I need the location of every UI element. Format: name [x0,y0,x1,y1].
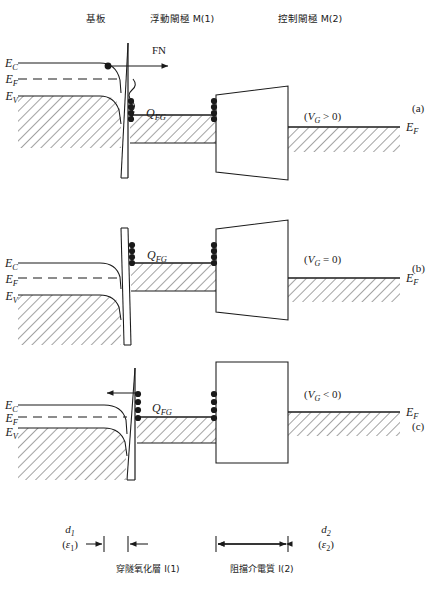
bias-label-b: (VG = 0) [304,253,341,268]
bias-label-a: (VG > 0) [304,110,341,125]
panel-c [18,362,400,480]
level-label-ec: EC [4,56,18,72]
caption-tunnel-oxide: 穿隧氧化層 I(1) [116,563,179,574]
charge-label-qfg: QFG [146,106,166,122]
level-label-ev: EV [4,425,19,441]
panel-tag-c: (c) [412,420,425,433]
level-label-ef: EF [4,272,18,288]
bias-label-c: (VG < 0) [304,388,341,403]
panel-b [18,220,400,345]
dim-label-eps1: (ε1) [62,538,78,553]
right-level-label-ef: EF [405,120,419,136]
level-label-ef: EF [4,72,18,88]
panel-a [18,43,400,180]
band-diagram-svg: 基板 浮動閘極 M(1) 控制閘極 M(2) EC EF EV FN QFG (… [0,0,442,600]
level-label-ec: EC [4,256,18,272]
header-control-gate: 控制閘極 M(2) [278,13,343,24]
figure-canvas: 基板 浮動閘極 M(1) 控制閘極 M(2) EC EF EV FN QFG (… [0,0,442,600]
dimension-rulers [86,536,288,552]
panel-tag-b: (b) [412,262,425,275]
caption-blocking-dielectric: 阻擋介電質 I(2) [230,563,293,574]
header-floating-gate: 浮動閘極 M(1) [150,13,215,24]
dim-label-d1: d1 [65,523,75,538]
dim-label-d2: d2 [321,523,331,538]
right-level-label-ef: EF [405,405,419,421]
fn-tunneling-label: FN [152,44,166,56]
dim-label-eps2: (ε2) [318,538,334,553]
charge-label-qfg: QFG [147,248,167,264]
level-label-ev: EV [4,289,19,305]
dimension-labels: d1 (ε1) d2 (ε2) [62,523,334,553]
panel-tag-a: (a) [412,102,425,115]
charge-label-qfg: QFG [152,401,172,417]
header-substrate: 基板 [86,13,106,24]
level-label-ev: EV [4,89,19,105]
